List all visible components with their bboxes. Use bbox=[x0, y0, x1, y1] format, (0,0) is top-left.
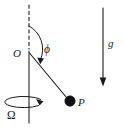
angular-velocity-label: Ω bbox=[7, 109, 16, 121]
angle-label: ϕ bbox=[44, 43, 50, 56]
pendulum-bob bbox=[65, 96, 75, 106]
gravity-arrow-head bbox=[100, 78, 107, 87]
gravity-label: g bbox=[108, 37, 114, 49]
omega-arc-arrowhead bbox=[36, 99, 43, 105]
pendulum-rod bbox=[30, 53, 67, 98]
bob-label: P bbox=[77, 96, 85, 108]
pendulum-diagram-svg: O ϕ P g Ω bbox=[0, 0, 124, 127]
pivot-label: O bbox=[13, 47, 21, 59]
pendulum-figure: O ϕ P g Ω bbox=[0, 0, 124, 127]
omega-rotation-arc bbox=[5, 96, 41, 107]
